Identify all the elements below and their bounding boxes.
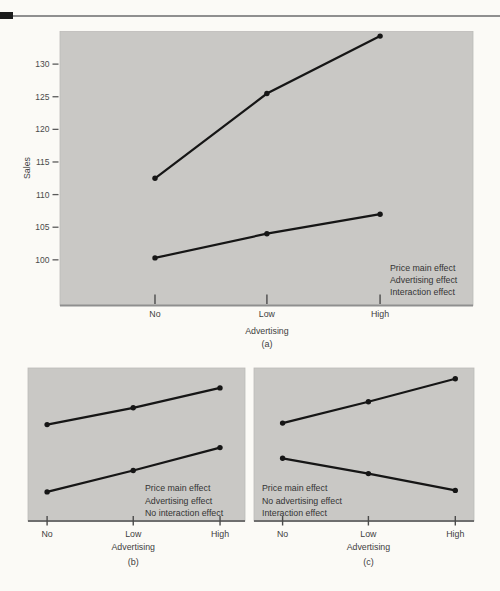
data-point (453, 488, 458, 493)
data-point (280, 420, 285, 425)
data-point (366, 399, 371, 404)
data-point (264, 91, 269, 96)
annotation-line: No advertising effect (262, 496, 343, 506)
x-axis-title: Advertising (111, 542, 155, 552)
x-tick-label: High (211, 529, 229, 539)
y-tick-label: 120 (35, 124, 49, 134)
data-point (280, 456, 285, 461)
data-point (366, 471, 371, 476)
y-tick-label: 125 (35, 92, 49, 102)
data-point (453, 376, 458, 381)
annotation-line: Interaction effect (390, 287, 455, 297)
data-point (44, 489, 49, 494)
annotation-line: Advertising effect (145, 496, 213, 506)
y-tick-label: 115 (36, 157, 50, 167)
y-tick-label: 105 (35, 222, 49, 232)
data-point (217, 385, 222, 390)
x-axis-title: Advertising (245, 326, 289, 336)
data-point (152, 176, 157, 181)
x-tick-label: Low (259, 309, 276, 319)
y-tick-label: 100 (35, 255, 49, 265)
y-axis-title: Sales (22, 156, 32, 179)
data-point (377, 212, 382, 217)
x-tick-label: No (41, 529, 52, 539)
data-point (377, 33, 382, 38)
data-point (264, 231, 269, 236)
data-point (131, 468, 136, 473)
chart-caption: (b) (128, 557, 139, 567)
chart-caption: (c) (363, 557, 374, 567)
chart-caption: (a) (261, 339, 272, 349)
annotation-line: Price main effect (145, 483, 211, 493)
x-tick-label: No (149, 309, 160, 319)
data-point (44, 422, 49, 427)
x-tick-label: High (371, 309, 389, 319)
chart-b: NoLowHighPrice main effectAdvertising ef… (28, 368, 245, 567)
chart-c: NoLowHighPrice main effectNo advertising… (254, 368, 474, 567)
x-tick-label: Low (360, 529, 377, 539)
data-point (217, 445, 222, 450)
plot-area (28, 368, 245, 521)
chart-a: 100105110115120125130SalesNoLowHighPrice… (22, 32, 473, 350)
charts-canvas: 100105110115120125130SalesNoLowHighPrice… (0, 0, 500, 591)
annotation-line: No interaction effect (145, 508, 224, 518)
x-axis-title: Advertising (347, 542, 391, 552)
data-point (152, 255, 157, 260)
x-tick-label: Low (125, 529, 142, 539)
y-tick-label: 130 (35, 59, 49, 69)
y-tick-label: 110 (36, 190, 50, 200)
x-tick-label: High (446, 529, 464, 539)
annotation-line: Interaction effect (262, 508, 327, 518)
annotation-line: Price main effect (390, 263, 456, 273)
data-point (131, 405, 136, 410)
annotation-line: Advertising effect (390, 275, 458, 285)
annotation-line: Price main effect (262, 483, 328, 493)
x-tick-label: No (277, 529, 288, 539)
figure: 100105110115120125130SalesNoLowHighPrice… (0, 0, 500, 591)
